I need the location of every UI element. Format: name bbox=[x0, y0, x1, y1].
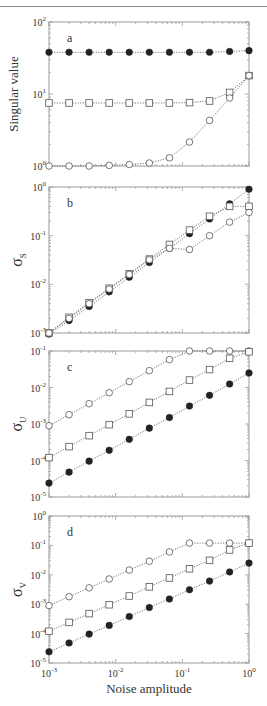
filled-circle-marker bbox=[226, 569, 233, 576]
open-square-marker bbox=[206, 557, 213, 564]
open-square-marker bbox=[186, 565, 193, 572]
y-tick-label: 10-2 bbox=[30, 277, 46, 290]
filled-circle-marker bbox=[66, 49, 73, 56]
y-tick-label: 100 bbox=[33, 159, 47, 172]
x-tick-label: 10-2 bbox=[108, 666, 124, 679]
y-axis-title: σU bbox=[8, 416, 28, 432]
open-circle-marker bbox=[186, 246, 193, 253]
open-square-marker bbox=[46, 454, 53, 461]
open-circle-marker bbox=[126, 161, 133, 168]
filled-circle-marker bbox=[206, 49, 213, 56]
y-tick-label: 100 bbox=[33, 180, 47, 193]
series-filled-circle bbox=[46, 370, 253, 487]
filled-circle-marker bbox=[246, 186, 253, 193]
open-circle-marker bbox=[46, 422, 53, 429]
open-circle-marker bbox=[166, 245, 173, 252]
y-tick-label: 10-4 bbox=[30, 627, 46, 640]
x-tick-label: 10-3 bbox=[41, 666, 57, 679]
series-line bbox=[49, 76, 249, 103]
filled-circle-marker bbox=[206, 392, 213, 399]
open-circle-marker bbox=[226, 348, 233, 355]
y-tick-label: 10-4 bbox=[30, 454, 46, 467]
open-circle-marker bbox=[226, 540, 233, 547]
open-square-marker bbox=[246, 203, 253, 210]
series-filled-circle bbox=[46, 47, 253, 55]
open-circle-marker bbox=[146, 367, 153, 374]
open-circle-marker bbox=[206, 117, 213, 124]
filled-circle-marker bbox=[226, 381, 233, 388]
open-circle-marker bbox=[106, 286, 113, 293]
open-square-marker bbox=[186, 377, 193, 384]
open-square-marker bbox=[106, 421, 113, 428]
filled-circle-marker bbox=[246, 47, 253, 54]
filled-circle-marker bbox=[166, 596, 173, 603]
series-open-circle bbox=[46, 348, 253, 429]
y-tick-label: 100 bbox=[33, 509, 47, 522]
panel-a: 100101102Singular valuea bbox=[6, 15, 252, 172]
series-open-circle bbox=[46, 209, 253, 336]
filled-circle-marker bbox=[126, 613, 133, 620]
y-tick-label: 102 bbox=[33, 15, 47, 28]
open-square-marker bbox=[166, 575, 173, 582]
filled-circle-marker bbox=[186, 403, 193, 410]
open-circle-marker bbox=[146, 256, 153, 263]
filled-circle-marker bbox=[146, 604, 153, 611]
series-open-square bbox=[46, 203, 253, 336]
open-square-marker bbox=[66, 100, 73, 107]
open-square-marker bbox=[146, 584, 153, 591]
open-square-marker bbox=[106, 100, 113, 107]
open-circle-marker bbox=[66, 163, 73, 170]
panel-label: b bbox=[67, 196, 73, 210]
series-line bbox=[49, 206, 249, 333]
open-circle-marker bbox=[66, 315, 73, 322]
open-square-marker bbox=[186, 227, 193, 234]
open-circle-marker bbox=[166, 549, 173, 556]
open-circle-marker bbox=[126, 567, 133, 574]
filled-circle-marker bbox=[86, 631, 93, 638]
panel-label: c bbox=[67, 360, 72, 374]
filled-circle-marker bbox=[66, 469, 73, 476]
filled-circle-marker bbox=[246, 560, 253, 567]
open-square-marker bbox=[166, 388, 173, 395]
open-circle-marker bbox=[206, 348, 213, 355]
y-axis-title: Singular value bbox=[6, 56, 21, 132]
series-line bbox=[49, 543, 249, 605]
open-circle-marker bbox=[246, 72, 253, 79]
x-tick-label: 100 bbox=[242, 666, 256, 679]
y-tick-label: 10-1 bbox=[30, 538, 46, 551]
y-axis-title: σV bbox=[8, 581, 28, 597]
series-open-circle bbox=[46, 540, 253, 609]
open-square-marker bbox=[86, 100, 93, 107]
open-square-marker bbox=[246, 349, 253, 356]
open-square-marker bbox=[126, 411, 133, 418]
panel-label: a bbox=[67, 31, 73, 45]
filled-circle-marker bbox=[126, 49, 133, 56]
open-circle-marker bbox=[46, 163, 53, 170]
panel-c: 10-510-410-310-210-1σUc bbox=[8, 344, 252, 503]
figure: 100101102Singular valuea10-310-210-1100σ… bbox=[0, 0, 267, 706]
open-square-marker bbox=[226, 547, 233, 554]
panel-b: 10-310-210-1100σSb bbox=[8, 180, 252, 339]
open-circle-marker bbox=[186, 139, 193, 146]
filled-circle-marker bbox=[66, 640, 73, 647]
open-circle-marker bbox=[106, 162, 113, 169]
y-tick-label: 101 bbox=[33, 87, 47, 100]
open-circle-marker bbox=[146, 558, 153, 565]
open-circle-marker bbox=[186, 540, 193, 547]
open-circle-marker bbox=[106, 389, 113, 396]
filled-circle-marker bbox=[166, 49, 173, 56]
panel-label: d bbox=[67, 525, 73, 539]
open-circle-marker bbox=[86, 585, 93, 592]
series-open-square bbox=[46, 349, 253, 461]
y-tick-label: 10-3 bbox=[30, 326, 46, 339]
open-square-marker bbox=[106, 601, 113, 608]
y-tick-label: 10-1 bbox=[30, 344, 46, 357]
series-filled-circle bbox=[46, 560, 253, 655]
open-square-marker bbox=[206, 213, 213, 220]
filled-circle-marker bbox=[46, 480, 53, 487]
x-tick-label: 10-1 bbox=[174, 666, 190, 679]
y-tick-label: 10-2 bbox=[30, 568, 46, 581]
open-circle-marker bbox=[246, 209, 253, 216]
open-circle-marker bbox=[166, 154, 173, 161]
open-circle-marker bbox=[126, 271, 133, 278]
